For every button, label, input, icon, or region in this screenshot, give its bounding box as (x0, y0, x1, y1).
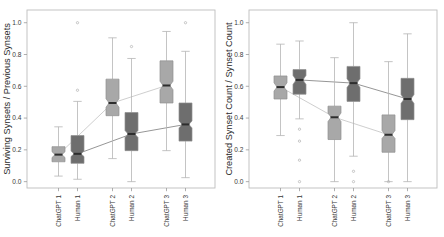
x-category-label: Human 2 (128, 195, 135, 221)
x-category-label: Human 2 (350, 195, 357, 221)
outlier-point (76, 22, 78, 24)
box-notched (179, 103, 192, 141)
outlier-point (130, 45, 132, 47)
y-tick-label: 0.4 (234, 114, 243, 121)
y-tick-label: 0.6 (12, 83, 21, 90)
x-category-label: Human 1 (74, 195, 81, 221)
y-tick-label: 1.0 (12, 19, 21, 26)
x-category-label: ChatGPT 1 (55, 195, 62, 227)
y-tick-label: 0.6 (234, 83, 243, 90)
outlier-point (298, 180, 300, 182)
y-tick-label: 0.2 (12, 146, 21, 153)
boxplot-3[interactable] (328, 58, 341, 182)
y-tick-label: 0.0 (234, 178, 243, 185)
figure-root: 0.00.20.40.60.81.0Surviving Synsets / Pr… (0, 0, 444, 237)
y-tick-label: 1.0 (234, 19, 243, 26)
box-notched (106, 79, 119, 116)
box-notched (382, 115, 395, 152)
box-notched (125, 113, 138, 151)
outlier-point (352, 180, 354, 182)
x-category-label: ChatGPT 2 (331, 195, 338, 227)
box-notched (293, 70, 306, 95)
outlier-point (76, 89, 78, 91)
boxplot-2[interactable] (71, 22, 84, 180)
x-category-label: ChatGPT 3 (163, 195, 170, 227)
y-tick-label: 0.4 (12, 114, 21, 121)
boxplot-svg-left: 0.00.20.40.60.81.0Surviving Synsets / Pr… (0, 0, 222, 237)
y-tick-label: 0.8 (234, 51, 243, 58)
panel-right: 0.00.20.40.60.81.0Created Synset Count /… (222, 0, 444, 237)
y-tick-label: 0.0 (12, 178, 21, 185)
outlier-point (298, 159, 300, 161)
panel-left: 0.00.20.40.60.81.0Surviving Synsets / Pr… (0, 0, 222, 237)
boxplot-5[interactable] (382, 62, 395, 183)
boxplot-4[interactable] (347, 23, 360, 183)
x-category-label: Human 3 (182, 195, 189, 221)
outlier-point (298, 140, 300, 142)
x-category-label: ChatGPT 2 (109, 195, 116, 227)
x-category-label: ChatGPT 3 (385, 195, 392, 227)
boxplot-1[interactable] (52, 127, 65, 176)
x-category-label: ChatGPT 1 (277, 195, 284, 227)
boxplot-1[interactable] (274, 44, 287, 135)
boxplot-svg-right: 0.00.20.40.60.81.0Created Synset Count /… (222, 0, 444, 237)
x-category-label: Human 1 (296, 195, 303, 221)
boxplot-6[interactable] (179, 22, 192, 178)
boxplot-4[interactable] (125, 45, 138, 181)
box-notched (328, 106, 341, 139)
outlier-point (184, 22, 186, 24)
y-tick-label: 0.2 (234, 146, 243, 153)
outlier-point (352, 170, 354, 172)
boxplot-2[interactable] (293, 41, 306, 183)
x-category-label: Human 3 (404, 195, 411, 221)
boxplot-6[interactable] (401, 34, 414, 182)
y-axis-title: Created Synset Count / Synset Count (224, 22, 234, 176)
box-notched (71, 136, 84, 164)
y-axis-title: Surviving Synsets / Previous Synsets (2, 23, 12, 175)
boxplot-5[interactable] (160, 31, 173, 150)
box-notched (160, 61, 173, 103)
y-tick-label: 0.8 (12, 51, 21, 58)
boxplot-3[interactable] (106, 38, 119, 159)
outlier-point (298, 128, 300, 130)
